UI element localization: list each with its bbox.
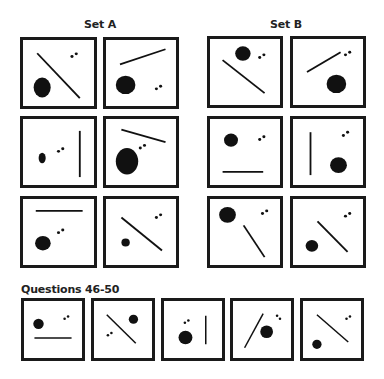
panel-set-b-5 — [207, 196, 283, 268]
small-dot — [61, 147, 64, 150]
filled-circle — [306, 240, 319, 252]
panel-figure — [164, 301, 222, 358]
panel-figure — [210, 199, 280, 265]
filled-circle — [260, 326, 273, 339]
small-dot — [342, 134, 345, 137]
filled-circle — [121, 239, 129, 247]
set-b-title: Set B — [270, 18, 302, 31]
small-dot — [63, 317, 66, 320]
small-dot — [349, 315, 352, 318]
small-dot — [159, 85, 162, 88]
panel-set-b-1 — [207, 36, 283, 108]
panel-figure — [293, 119, 363, 185]
panel-figure — [94, 301, 152, 358]
panel-figure — [303, 301, 361, 358]
panel-question-46[interactable] — [21, 298, 85, 361]
small-dot — [187, 319, 190, 322]
panel-set-b-4 — [290, 116, 366, 188]
small-dot — [110, 332, 113, 335]
small-dot — [261, 212, 264, 215]
small-dot — [139, 147, 142, 150]
panel-set-b-3 — [207, 116, 283, 188]
panel-figure — [23, 40, 94, 106]
panel-set-a-4 — [103, 116, 179, 188]
small-dot — [258, 138, 261, 141]
filled-circle — [330, 157, 347, 173]
set-a-title: Set A — [84, 18, 116, 31]
small-dot — [344, 53, 347, 56]
panel-set-a-3 — [20, 116, 97, 188]
panel-figure — [106, 119, 176, 185]
filled-circle — [34, 78, 51, 98]
small-dot — [262, 53, 265, 56]
line-segment — [318, 221, 348, 251]
filled-circle — [39, 153, 46, 164]
small-dot — [265, 209, 268, 212]
panel-figure — [106, 199, 176, 265]
filled-circle — [224, 134, 238, 147]
line-segment — [317, 315, 348, 342]
panel-question-48[interactable] — [161, 298, 225, 361]
small-dot — [184, 321, 187, 324]
filled-circle — [116, 148, 138, 174]
panel-set-a-1 — [20, 37, 97, 109]
small-dot — [345, 317, 348, 320]
panel-question-47[interactable] — [91, 298, 155, 361]
small-dot — [67, 315, 70, 318]
panel-figure — [23, 119, 94, 185]
filled-circle — [35, 236, 51, 251]
small-dot — [70, 55, 73, 58]
panel-figure — [210, 39, 280, 105]
panel-figure — [106, 40, 176, 106]
filled-circle — [235, 46, 250, 61]
filled-circle — [33, 319, 43, 329]
panel-set-a-2 — [103, 37, 179, 109]
filled-circle — [129, 315, 138, 324]
filled-circle — [179, 331, 193, 345]
filled-circle — [327, 75, 347, 93]
panel-figure — [293, 39, 363, 105]
line-segment — [120, 49, 166, 64]
panel-figure — [23, 199, 94, 265]
small-dot — [107, 334, 110, 337]
small-dot — [276, 315, 279, 318]
filled-circle — [312, 340, 321, 349]
line-segment — [223, 60, 265, 93]
line-segment — [307, 52, 341, 72]
line-segment — [121, 130, 165, 143]
small-dot — [61, 229, 64, 232]
small-dot — [75, 52, 78, 55]
panel-figure — [24, 301, 82, 358]
small-dot — [155, 216, 158, 219]
panel-figure — [210, 119, 280, 185]
small-dot — [279, 317, 282, 320]
small-dot — [262, 135, 265, 138]
small-dot — [344, 215, 347, 218]
panel-set-a-5 — [20, 196, 97, 268]
small-dot — [346, 131, 349, 134]
small-dot — [57, 150, 60, 153]
panel-question-49[interactable] — [230, 298, 294, 361]
small-dot — [155, 87, 158, 90]
small-dot — [258, 56, 261, 59]
panel-figure — [293, 199, 363, 265]
panel-figure — [233, 301, 291, 358]
line-segment — [244, 225, 265, 257]
small-dot — [348, 212, 351, 215]
small-dot — [159, 213, 162, 216]
small-dot — [57, 231, 60, 234]
filled-circle — [219, 207, 236, 223]
panel-set-b-6 — [290, 196, 366, 268]
filled-circle — [116, 76, 136, 94]
questions-title: Questions 46-50 — [21, 283, 119, 296]
panel-set-b-2 — [290, 36, 366, 108]
panel-question-50[interactable] — [300, 298, 364, 361]
small-dot — [143, 144, 146, 147]
panel-set-a-6 — [103, 196, 179, 268]
small-dot — [348, 51, 351, 54]
